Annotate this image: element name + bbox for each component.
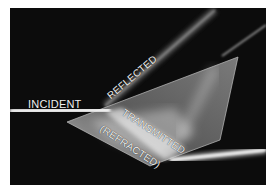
- prism-photo: INCIDENT REFLECTED TRANSMITTED (REFRACTE…: [10, 8, 266, 185]
- incident-label: INCIDENT: [28, 98, 82, 110]
- incident-beam: [10, 110, 110, 111]
- secondary-reflected-beam: [222, 25, 266, 56]
